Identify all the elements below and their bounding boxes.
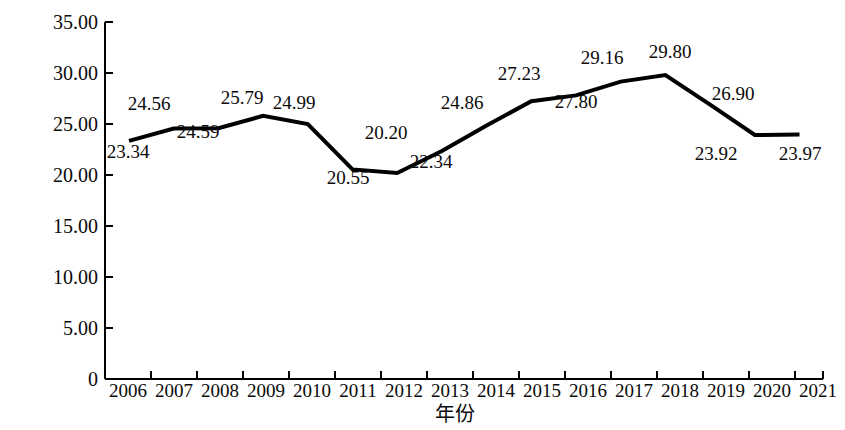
data-point-label: 23.97 [772,144,828,164]
data-point-label: 23.34 [100,142,156,162]
data-point-label: 23.92 [688,144,744,164]
data-point-label: 24.86 [434,93,490,113]
data-point-label: 29.16 [574,48,630,68]
data-point-label: 25.79 [214,88,270,108]
data-point-label: 20.55 [320,168,376,188]
data-point-label: 27.23 [491,64,547,84]
y-axis-ticks [105,22,113,328]
data-point-label: 22.34 [403,152,459,172]
data-point-label: 24.56 [121,94,177,114]
x-axis-ticks [105,371,823,379]
data-point-label: 26.90 [705,84,761,104]
data-point-label: 29.80 [642,42,698,62]
data-point-label: 20.20 [358,123,414,143]
data-point-label: 24.59 [170,122,226,142]
line-chart: 海洋生产总值占地区GDP比重/% 年份 35.00 30.00 25.00 20… [0,0,845,430]
plot-area [0,0,845,430]
data-point-label: 24.99 [266,93,322,113]
data-point-label: 27.80 [548,92,604,112]
